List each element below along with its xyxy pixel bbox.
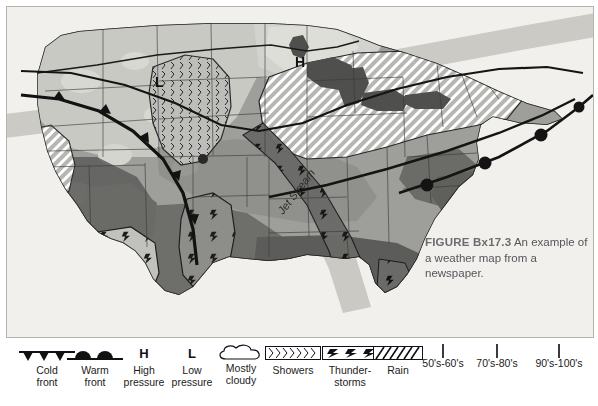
- map-legend: Cold front Warm front H High pressure: [0, 338, 598, 406]
- showers-hatch-icon: [262, 346, 324, 362]
- letter-h-glyph: H: [139, 346, 148, 361]
- weather-map-figure-page: H L Jet Stream FIGURE Bx17.3 An example …: [0, 0, 598, 406]
- figure-caption-lead: FIGURE Bx17.3: [425, 236, 511, 248]
- legend-item-temp-70-80[interactable]: 70's-80's: [466, 346, 528, 369]
- legend-item-temp-90-100[interactable]: 90's-100's: [526, 346, 592, 369]
- letter-l-glyph: L: [188, 346, 196, 361]
- legend-label-temp-50-60: 50's-60's: [412, 358, 474, 370]
- swatch-medium-icon: [496, 344, 498, 358]
- legend-item-temp-50-60[interactable]: 50's-60's: [412, 346, 474, 369]
- figure-frame: H L Jet Stream FIGURE Bx17.3 An example …: [6, 6, 594, 338]
- swatch-light-icon: [442, 344, 444, 358]
- legend-item-showers[interactable]: Showers: [262, 346, 324, 377]
- low-pressure-marker-west: L: [155, 74, 164, 90]
- legend-label-temp-70-80: 70's-80's: [466, 358, 528, 370]
- legend-label-temp-90-100: 90's-100's: [526, 358, 592, 370]
- swatch-dark-icon: [558, 344, 560, 358]
- high-pressure-marker-north: H: [295, 54, 305, 70]
- legend-label-showers: Showers: [262, 365, 324, 377]
- storm-center-dot: [198, 154, 208, 164]
- weather-map-graphic: H L Jet Stream: [7, 7, 593, 337]
- figure-caption: FIGURE Bx17.3 An example of a weather ma…: [425, 235, 593, 282]
